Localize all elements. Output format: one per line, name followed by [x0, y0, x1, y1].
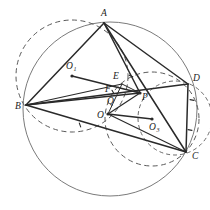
point-label-o3: O3: [149, 122, 159, 133]
point-label-e: E: [112, 71, 119, 81]
segment-A-B: [26, 23, 104, 105]
point-label-p: P: [141, 92, 148, 102]
point-label-o: O: [97, 110, 104, 120]
segment-B-P: [26, 93, 140, 105]
point-label-o1: O1: [66, 61, 76, 72]
geometry-figure: ABCDEPOO1O3QF: [0, 0, 210, 210]
point-dot-o1: [70, 74, 73, 77]
circles-layer: [16, 20, 210, 196]
point-label-d: D: [192, 73, 200, 83]
point-label-subscript-o1: 1: [73, 66, 76, 72]
geometry-canvas: ABCDEPOO1O3QF: [0, 0, 210, 210]
congruence-tick-on-BC: [79, 123, 80, 127]
point-label-b: B: [15, 101, 21, 111]
point-label-subscript-o3: 3: [155, 127, 159, 133]
point-label-f: F: [104, 84, 111, 94]
point-dot-o3: [150, 117, 153, 120]
tick-marks-layer: [79, 75, 194, 130]
point-label-a: A: [100, 8, 107, 18]
point-dot-o: [106, 112, 109, 115]
congruence-tick-on-DC-upper: [190, 100, 194, 101]
segment-O3-O: [108, 114, 152, 119]
segment-D-C: [186, 84, 188, 152]
congruence-tick-near-E: [129, 75, 133, 77]
point-label-c: C: [192, 151, 199, 161]
congruence-tick-on-DC-lower: [188, 130, 192, 131]
point-label-q: Q: [107, 96, 114, 106]
